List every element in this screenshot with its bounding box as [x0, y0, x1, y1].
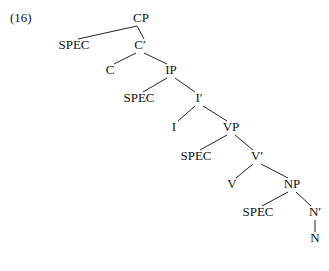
tree-edge: [114, 53, 136, 64]
tree-edge: [144, 53, 167, 64]
tree-node-n: N: [310, 231, 319, 245]
tree-node-spec2: SPEC: [123, 91, 154, 105]
tree-node-np: NP: [284, 177, 301, 191]
tree-node-i: I: [172, 120, 176, 134]
syntax-tree-edges: [0, 0, 329, 271]
tree-node-i1: I′: [195, 91, 202, 105]
tree-node-vp: VP: [223, 120, 240, 134]
tree-node-v1: V′: [251, 149, 263, 163]
tree-node-ip: IP: [165, 63, 177, 77]
tree-edge: [178, 106, 195, 121]
tree-edge: [175, 78, 195, 92]
tree-node-c: C: [106, 63, 115, 77]
tree-node-cp: CP: [133, 11, 149, 25]
tree-node-v: V: [227, 177, 236, 191]
tree-edge: [236, 164, 253, 178]
tree-node-spec4: SPEC: [242, 205, 273, 219]
tree-node-c1: C′: [134, 38, 146, 52]
tree-node-spec1: SPEC: [58, 38, 89, 52]
tree-node-spec3: SPEC: [180, 149, 211, 163]
tree-node-n1: N′: [309, 205, 321, 219]
